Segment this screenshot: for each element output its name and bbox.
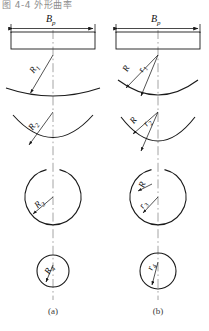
leader-b1-r: [141, 55, 158, 96]
caption-a: (a): [33, 306, 73, 316]
figure-drawing: [0, 0, 209, 331]
caption-b: (b): [138, 306, 178, 316]
figure-root: 图 4-4 外形曲率: [0, 0, 209, 331]
dimension-label-a: Bp: [46, 13, 56, 27]
dimension-label-b: Bp: [151, 13, 161, 27]
